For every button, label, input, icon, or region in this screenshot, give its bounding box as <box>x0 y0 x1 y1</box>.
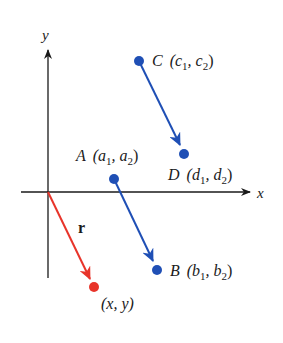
point-c-dot <box>134 56 144 66</box>
point-xy-dot <box>89 282 99 292</box>
vector-r: r <box>48 192 99 292</box>
point-d-dot <box>179 149 189 159</box>
point-c-label: C (c1, c2) <box>152 52 214 72</box>
vector-diagram: x y r C (c1, c2) A (a1, a2) D (d1, d2) B… <box>0 0 283 343</box>
point-d-label: D (d1, d2) <box>167 166 232 186</box>
x-axis-label: x <box>256 185 264 201</box>
point-a-label: A (a1, a2) <box>75 147 138 167</box>
point-a-dot <box>109 174 119 184</box>
vector-cd-line <box>139 61 180 145</box>
point-b-label: B (b1, b2) <box>170 262 232 282</box>
point-xy-label: (x, y) <box>101 295 134 313</box>
point-b-dot <box>152 265 162 275</box>
vector-ab-line <box>114 179 153 261</box>
vector-r-label: r <box>78 219 85 236</box>
y-axis-label: y <box>40 27 49 43</box>
vector-ab <box>109 174 162 275</box>
vector-cd <box>134 56 189 159</box>
